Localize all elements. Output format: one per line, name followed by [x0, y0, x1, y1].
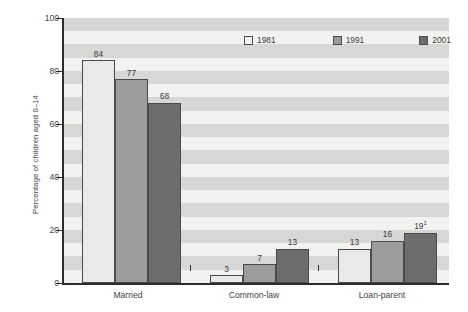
plot-area: 84 77 68 3 7 13 13 16 191: [62, 18, 449, 285]
bar-value-married-2001: 68: [148, 92, 181, 100]
bar-value-common-law-1991: 7: [243, 254, 276, 262]
legend-swatch-1981-icon: [244, 36, 253, 45]
bar-common-law-1991[interactable]: [243, 264, 276, 283]
bar-value-married-1991: 77: [115, 69, 148, 77]
y-tick-label-40: 40: [25, 173, 59, 182]
bar-married-1981[interactable]: [82, 60, 115, 283]
bar-common-law-2001[interactable]: [276, 249, 309, 283]
y-tick-label-20: 20: [25, 226, 59, 235]
x-axis-label-common-law: Common-law: [206, 290, 302, 300]
bar-chart-figure: Percentage of children aged 0–14 100 80 …: [0, 0, 468, 312]
legend-item-1981[interactable]: 1981: [244, 36, 276, 45]
bar-lone-parent-2001[interactable]: [404, 233, 437, 283]
bar-value-common-law-2001: 13: [276, 238, 309, 246]
bar-value-lone-parent-1981: 13: [338, 238, 371, 246]
legend-swatch-1991-icon: [333, 36, 342, 45]
chart-legend: 1981 1991 2001: [244, 34, 451, 47]
footnote-marker-superscript: 1: [423, 220, 426, 226]
legend-swatch-2001-icon: [419, 36, 428, 45]
legend-label-1991: 1991: [346, 36, 365, 44]
bar-married-1991[interactable]: [115, 79, 148, 283]
legend-item-2001[interactable]: 2001: [419, 36, 451, 45]
y-tick-label-100: 100: [25, 14, 59, 23]
bar-value-lone-parent-2001: 191: [404, 222, 437, 230]
legend-item-1991[interactable]: 1991: [333, 36, 365, 45]
x-axis-label-married: Married: [80, 290, 176, 300]
bar-value-common-law-1981: 3: [210, 265, 243, 273]
bar-lone-parent-1991[interactable]: [371, 241, 404, 283]
x-axis-label-lone-parent: Loan-parent: [334, 290, 430, 300]
x-axis-separator-2: [318, 265, 319, 271]
x-axis-separator-1: [190, 265, 191, 271]
bar-married-2001[interactable]: [148, 103, 181, 283]
bar-value-lone-parent-1991: 16: [371, 230, 404, 238]
legend-label-2001: 2001: [432, 36, 451, 44]
bar-value-married-1981: 84: [82, 50, 115, 58]
y-axis-title: Percentage of children aged 0–14: [31, 25, 40, 285]
bar-common-law-1981[interactable]: [210, 275, 243, 283]
y-tick-label-60: 60: [25, 120, 59, 129]
y-tick-label-80: 80: [25, 67, 59, 76]
legend-label-1981: 1981: [257, 36, 276, 44]
y-tick-label-0: 0: [25, 279, 59, 288]
bar-lone-parent-1981[interactable]: [338, 249, 371, 283]
